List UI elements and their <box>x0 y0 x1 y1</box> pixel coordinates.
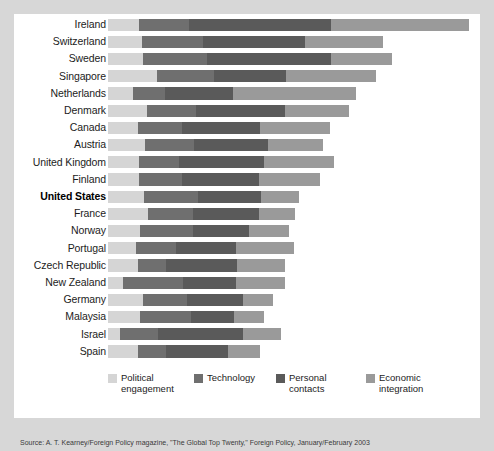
legend-swatch-icon <box>276 374 285 383</box>
chart-row: Netherlands <box>14 85 480 102</box>
bar-segment <box>108 105 147 117</box>
bar-segment <box>214 70 286 82</box>
category-label: United Kingdom <box>14 154 106 171</box>
bar-segment <box>108 225 140 237</box>
bar-segment <box>182 122 261 134</box>
bar-segment <box>179 156 264 168</box>
stacked-bar <box>108 311 264 323</box>
bar-segment <box>108 191 144 203</box>
bar-segment <box>145 139 194 151</box>
bar-segment <box>268 139 323 151</box>
chart-row: United States <box>14 188 480 205</box>
legend-item: Technology <box>194 372 255 383</box>
bar-segment <box>148 208 193 220</box>
legend-label-line2: contacts <box>289 383 327 394</box>
bar-segment <box>108 259 138 271</box>
chart-row: Denmark <box>14 102 480 119</box>
bar-segment <box>138 122 182 134</box>
bar-segment <box>108 345 138 357</box>
chart-row: Ireland <box>14 16 480 33</box>
bar-segment <box>182 173 259 185</box>
chart-row: Sweden <box>14 50 480 67</box>
bar-segment <box>176 242 235 254</box>
bar-segment <box>260 122 330 134</box>
bar-segment <box>236 277 285 289</box>
legend-swatch-icon <box>194 374 203 383</box>
bar-segment <box>196 105 285 117</box>
bar-segment <box>108 328 120 340</box>
category-label: France <box>14 205 106 222</box>
bar-segment <box>108 139 145 151</box>
category-label: United States <box>14 188 106 205</box>
bar-segment <box>108 277 123 289</box>
bar-segment <box>203 36 305 48</box>
bar-segment <box>108 87 133 99</box>
legend-label: Personalcontacts <box>289 372 327 394</box>
legend-item: Personalcontacts <box>276 372 327 394</box>
bar-segment <box>136 242 176 254</box>
bar-segment <box>139 156 179 168</box>
legend-label: Economicintegration <box>379 372 423 394</box>
stacked-bar <box>108 156 334 168</box>
category-label: New Zealand <box>14 274 106 291</box>
bar-segment <box>144 191 198 203</box>
bar-segment <box>187 294 244 306</box>
bar-segment <box>108 70 157 82</box>
chart-row: Malaysia <box>14 308 480 325</box>
chart-row: Germany <box>14 291 480 308</box>
legend-label-line1: Personal <box>289 372 327 383</box>
bar-segment <box>194 139 268 151</box>
bar-segment <box>305 36 382 48</box>
bar-segment <box>108 122 138 134</box>
category-label: Switzerland <box>14 33 106 50</box>
bar-segment <box>207 53 331 65</box>
bar-segment <box>143 294 187 306</box>
bar-segment <box>286 70 376 82</box>
category-label: Canada <box>14 119 106 136</box>
bar-segment <box>331 53 392 65</box>
legend-label: Politicalengagement <box>121 372 174 394</box>
bar-segment <box>140 311 190 323</box>
category-label: Israel <box>14 326 106 343</box>
stacked-bar <box>108 53 392 65</box>
bar-segment <box>259 208 295 220</box>
stacked-bar <box>108 105 349 117</box>
bar-segment <box>261 191 298 203</box>
legend-label: Technology <box>207 372 255 383</box>
chart-row: New Zealand <box>14 274 480 291</box>
stacked-bar <box>108 277 285 289</box>
legend-label-line1: Technology <box>207 372 255 383</box>
bar-segment <box>142 36 204 48</box>
stacked-bar <box>108 87 356 99</box>
legend-item: Economicintegration <box>366 372 423 394</box>
stacked-bar <box>108 191 299 203</box>
bar-segment <box>191 311 235 323</box>
bar-segment <box>108 173 139 185</box>
bar-segment <box>108 156 139 168</box>
bar-segment <box>243 294 273 306</box>
chart-row: Israel <box>14 326 480 343</box>
stacked-bar <box>108 225 289 237</box>
bar-segment <box>236 242 294 254</box>
chart-row: Portugal <box>14 240 480 257</box>
bar-segment <box>228 345 260 357</box>
stacked-bar <box>108 328 281 340</box>
bar-segment <box>108 53 143 65</box>
legend-label-line2: integration <box>379 383 423 394</box>
bar-segment <box>138 259 166 271</box>
stacked-bar <box>108 259 285 271</box>
chart-row: United Kingdom <box>14 154 480 171</box>
category-label: Netherlands <box>14 85 106 102</box>
bar-segment <box>143 53 208 65</box>
stacked-bar <box>108 208 295 220</box>
chart-row: Singapore <box>14 68 480 85</box>
bar-segment <box>233 87 356 99</box>
category-label: Malaysia <box>14 308 106 325</box>
bar-segment <box>158 328 243 340</box>
bar-segment <box>264 156 334 168</box>
category-label: Norway <box>14 222 106 239</box>
bar-segment <box>108 294 143 306</box>
bar-segment <box>108 242 136 254</box>
chart-caption: Source: A. T. Kearney/Foreign Policy mag… <box>20 438 494 451</box>
category-label: Germany <box>14 291 106 308</box>
